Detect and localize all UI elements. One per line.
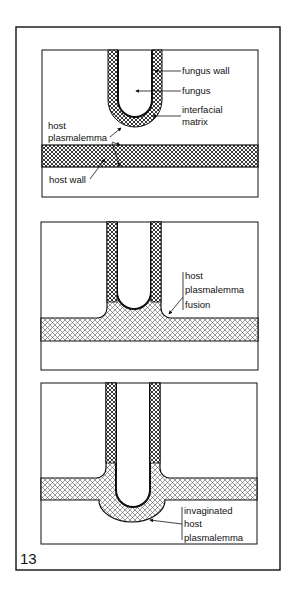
label-fusion: fusion — [185, 299, 210, 310]
label-interfacial: interfacial — [182, 104, 223, 115]
label-host: host — [48, 120, 66, 131]
figure-number: 13 — [20, 550, 37, 567]
figure-caption — [14, 586, 284, 596]
panel-1: fungus wall fungus interfacial matrix ho… — [42, 50, 258, 197]
label-fungus-wall: fungus wall — [182, 65, 230, 76]
label-plasmalemma: plasmalemma — [48, 132, 108, 143]
label-invaginated: invaginated — [184, 505, 233, 516]
label-host: host — [185, 270, 203, 281]
label-matrix: matrix — [182, 116, 208, 127]
figure-13-diagram: fungus wall fungus interfacial matrix ho… — [0, 0, 295, 596]
label-plasmalemma: plasmalemma — [185, 284, 245, 295]
panel-2: host plasmalemma fusion — [41, 222, 258, 370]
panel-3: invaginated host plasmalemma — [41, 383, 257, 544]
host-wall-band — [42, 145, 258, 167]
label-host: host — [184, 518, 202, 529]
label-fungus: fungus — [182, 85, 211, 96]
label-host-wall: host wall — [49, 174, 86, 185]
label-plasmalemma: plasmalemma — [184, 532, 244, 543]
